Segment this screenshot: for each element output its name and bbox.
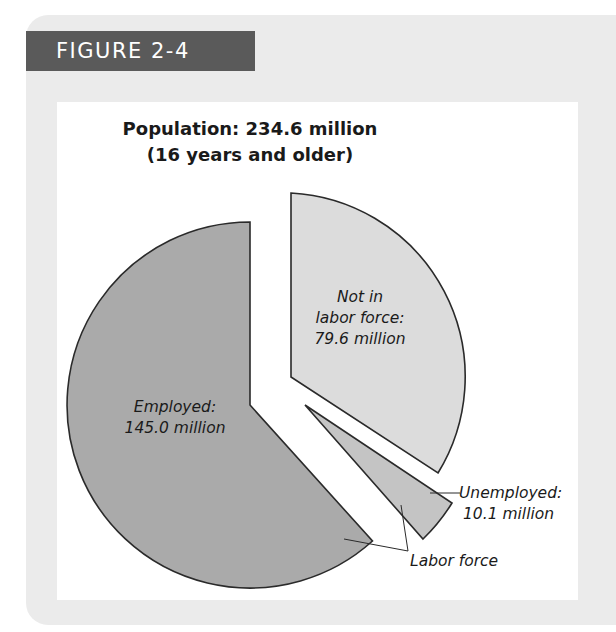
label-line: Employed: [105,397,245,418]
label-labor-force: Labor force [410,551,530,572]
label-line: 145.0 million [105,418,245,439]
label-line: Unemployed: [459,483,569,504]
label-not-in-labor-force: Not in labor force: 79.6 million [295,287,425,350]
label-unemployed: Unemployed: 10.1 million [459,483,569,525]
label-line: Not in [295,287,425,308]
label-employed: Employed: 145.0 million [105,397,245,439]
label-line: 10.1 million [459,504,569,525]
label-line: labor force: [295,308,425,329]
label-line: 79.6 million [295,329,425,350]
